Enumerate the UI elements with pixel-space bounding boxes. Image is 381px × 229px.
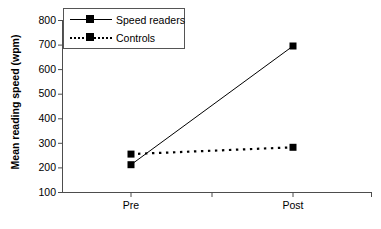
legend-label-speed-readers: Speed readers [114,14,185,26]
chart-figure: Mean reading speed (wpm) 800 700 600 500… [0,0,381,229]
chart-plot-area [0,0,381,229]
legend: Speed readers Controls [63,8,185,49]
legend-swatch-dashed-line-icon [68,31,114,45]
series-controls-marker-post [290,144,297,151]
series-speed-readers-line [131,46,293,165]
legend-swatch-solid-line-icon [68,13,114,27]
series-controls-line [131,147,293,154]
series-speed-readers-marker-post [290,43,297,50]
series-speed-readers-marker-pre [128,161,135,168]
legend-item-controls: Controls [68,30,155,46]
series-controls-marker-pre [128,151,135,158]
legend-item-speed-readers: Speed readers [68,12,185,28]
legend-label-controls: Controls [114,32,155,44]
